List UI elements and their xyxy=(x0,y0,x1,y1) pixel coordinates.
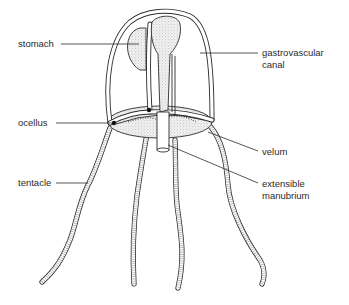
label-gastrovascular-canal: gastrovascular canal xyxy=(262,47,324,71)
label-manubrium-line1: extensible xyxy=(262,178,310,190)
label-extensible-manubrium: extensible manubrium xyxy=(262,178,310,202)
label-velum: velum xyxy=(262,146,287,158)
tentacles xyxy=(42,126,264,288)
label-gastrovascular-line1: gastrovascular xyxy=(262,47,324,59)
label-ocellus: ocellus xyxy=(18,117,48,129)
label-tentacle: tentacle xyxy=(18,177,51,189)
label-gastrovascular-line2: canal xyxy=(262,59,324,71)
stomach-shape xyxy=(128,28,147,70)
ocellus-dot-left xyxy=(112,121,116,125)
label-manubrium-line2: manubrium xyxy=(262,190,310,202)
label-stomach: stomach xyxy=(18,38,54,50)
ocellus-dot-center xyxy=(147,108,151,112)
